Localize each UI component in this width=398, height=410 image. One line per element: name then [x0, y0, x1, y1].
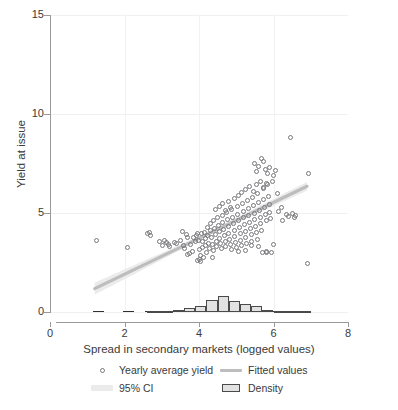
density-bar	[184, 308, 195, 312]
scatter-point	[267, 210, 272, 215]
scatter-point	[275, 191, 280, 196]
legend-item-fitted-values: Fitted values	[214, 364, 308, 376]
x-tick-label: 4	[184, 327, 214, 339]
scatter-point	[240, 201, 245, 206]
density-bar	[274, 311, 285, 313]
scatter-point	[269, 250, 274, 255]
scatter-point	[251, 189, 256, 194]
chart-figure: 051015 02468 Yield at issue Spread in se…	[0, 0, 398, 410]
band-swatch-icon	[85, 385, 119, 391]
legend-label: 95% CI	[119, 382, 153, 394]
x-tick-label: 0	[35, 327, 65, 339]
y-tick-label: 15	[14, 8, 44, 20]
density-bar	[262, 310, 273, 312]
scatter-point	[210, 255, 215, 260]
scatter-point	[235, 204, 240, 209]
density-histogram	[50, 15, 348, 312]
legend-item-density: Density	[214, 382, 283, 394]
scatter-point	[190, 249, 195, 254]
scatter-point	[273, 168, 278, 173]
scatter-point	[255, 237, 260, 242]
density-baseline	[123, 311, 134, 313]
density-bar	[195, 306, 206, 312]
scatter-point	[249, 243, 254, 248]
line-swatch-icon	[214, 369, 248, 372]
plot-area	[50, 15, 348, 312]
scatter-point	[229, 247, 234, 252]
scatter-point	[305, 261, 310, 266]
scatter-point	[261, 159, 266, 164]
scatter-point	[258, 215, 263, 220]
y-axis-tick	[44, 312, 50, 313]
x-tick-label: 2	[110, 327, 140, 339]
density-bar	[240, 304, 251, 312]
scatter-point	[251, 203, 256, 208]
chart-legend: Yearly average yield Fitted values 95% C…	[0, 362, 398, 406]
scatter-point	[258, 179, 263, 184]
scatter-point	[226, 199, 231, 204]
legend-label: Density	[248, 382, 283, 394]
circle-marker-icon	[85, 368, 119, 373]
y-tick-label: 0	[14, 305, 44, 317]
scatter-point	[223, 208, 228, 213]
scatter-point	[185, 252, 190, 257]
box-swatch-icon	[214, 384, 248, 392]
density-bar	[147, 311, 162, 313]
scatter-point	[246, 213, 251, 218]
scatter-point	[271, 173, 276, 178]
x-axis-title: Spread in secondary markets (logged valu…	[0, 343, 398, 355]
density-bar	[285, 311, 311, 313]
density-baseline	[93, 311, 104, 313]
x-tick-label: 8	[333, 327, 363, 339]
scatter-point	[270, 179, 275, 184]
scatter-point	[246, 206, 251, 211]
scatter-point	[250, 195, 255, 200]
x-tick-label: 6	[259, 327, 289, 339]
legend-item-yearly-average-yield: Yearly average yield	[85, 364, 213, 376]
density-bar	[218, 296, 229, 312]
scatter-point	[245, 198, 250, 203]
scatter-point	[241, 209, 246, 214]
density-bar	[173, 310, 184, 312]
scatter-point	[148, 233, 153, 238]
density-bar	[206, 300, 217, 312]
scatter-point	[232, 228, 237, 233]
scatter-point	[228, 205, 233, 210]
scatter-point	[257, 208, 262, 213]
x-axis-line	[56, 322, 348, 323]
scatter-point	[178, 238, 183, 243]
scatter-point	[195, 258, 200, 263]
density-bar	[251, 306, 262, 312]
legend-item-95-ci: 95% CI	[85, 382, 153, 394]
scatter-point	[293, 213, 298, 218]
scatter-point	[238, 231, 243, 236]
density-bar	[162, 311, 173, 313]
y-axis-title: Yield at issue	[15, 89, 27, 219]
scatter-point	[247, 184, 252, 189]
scatter-point	[266, 194, 271, 199]
scatter-point	[235, 212, 240, 217]
scatter-point	[267, 202, 272, 207]
scatter-point	[236, 249, 241, 254]
scatter-point	[220, 201, 225, 206]
density-bar	[229, 301, 240, 312]
legend-label: Fitted values	[248, 364, 308, 376]
scatter-point	[252, 211, 257, 216]
scatter-point	[264, 181, 269, 186]
scatter-point	[279, 205, 284, 210]
legend-label: Yearly average yield	[119, 364, 213, 376]
